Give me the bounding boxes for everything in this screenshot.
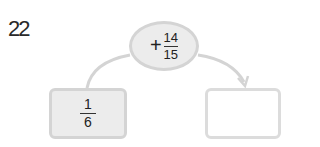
connector-line-right: [198, 55, 244, 82]
plus-operator: +: [150, 34, 162, 57]
connector-line-left: [87, 55, 130, 88]
start-fraction: 1 6: [80, 97, 96, 130]
start-denominator: 6: [84, 115, 92, 130]
start-value-box: 1 6: [49, 88, 127, 139]
operation-fraction: 14 15: [164, 31, 178, 62]
operation-oval: + 14 15: [129, 21, 199, 71]
operation-denominator: 15: [164, 48, 178, 62]
start-numerator: 1: [84, 97, 92, 112]
operation-numerator: 14: [164, 31, 178, 45]
answer-box[interactable]: [205, 88, 281, 139]
